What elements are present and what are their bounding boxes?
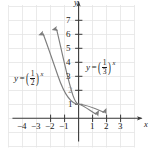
x-tick-label-3: 3 (118, 122, 123, 131)
x-tick-label-neg2: −2 (45, 122, 55, 131)
right-paren-icon: ) (36, 73, 39, 84)
x-tick-label-neg4: −4 (17, 122, 27, 131)
curve-label-one-third-y: y (86, 63, 90, 72)
curve-label-one-half: y = ( 1 2 ) x (13, 70, 43, 86)
y-tick-label-2: 2 (68, 86, 73, 95)
equals-sign: = (91, 63, 97, 72)
fraction-numerator: 1 (30, 70, 35, 78)
y-tick-label-6: 6 (66, 30, 71, 39)
x-tick-label-neg3: −3 (31, 122, 41, 131)
fraction-denominator: 3 (102, 68, 107, 76)
exponential-decay-graph-figure: 7 6 5 4 3 2 1 −4 −3 −2 −1 1 2 3 x y y = … (0, 0, 156, 153)
fraction-one-third: 1 3 (102, 59, 107, 75)
curve-label-one-half-y: y (14, 74, 18, 83)
y-axis-label: y (74, 0, 78, 7)
right-paren-icon: ) (108, 62, 111, 73)
y-tick-label-1: 1 (68, 100, 73, 109)
y-tick-label-7: 7 (66, 16, 71, 25)
x-tick-label-neg1: −1 (59, 122, 69, 131)
y-tick-label-4: 4 (66, 58, 71, 67)
fraction-denominator: 2 (30, 79, 35, 87)
left-paren-icon: ( (98, 62, 101, 73)
exponent-x: x (113, 60, 116, 67)
y-tick-label-3: 3 (66, 72, 71, 81)
fraction-numerator: 1 (102, 59, 107, 67)
x-axis-label: x (144, 120, 148, 129)
curve-label-one-third: y = ( 1 3 ) x (85, 59, 115, 75)
y-tick-label-5: 5 (66, 44, 71, 53)
fraction-one-half: 1 2 (30, 70, 35, 86)
x-tick-label-2: 2 (104, 122, 109, 131)
exponent-x: x (41, 71, 44, 78)
left-paren-icon: ( (26, 73, 29, 84)
x-tick-label-1: 1 (90, 122, 95, 131)
equals-sign: = (19, 74, 25, 83)
